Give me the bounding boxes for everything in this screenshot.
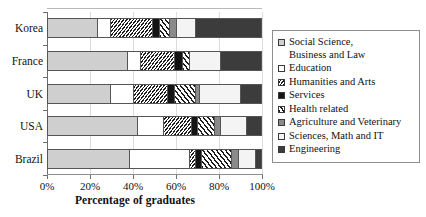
legend-item: Engineering [278, 143, 415, 156]
x-axis-tick-label: 20% [80, 180, 100, 192]
x-axis-tick [219, 175, 220, 179]
bar-row [47, 116, 262, 136]
legend-item: Health related [278, 103, 415, 116]
y-axis-label-brazil: Brazil [0, 153, 43, 165]
gridline [262, 12, 263, 174]
y-axis-tick [43, 45, 47, 46]
bar-row [47, 84, 262, 104]
x-axis-tick [133, 175, 134, 179]
bar-segment [189, 52, 221, 70]
bar-segment [48, 52, 127, 70]
legend-label: Engineering [289, 143, 340, 156]
y-axis-tick [43, 12, 47, 13]
legend-label: Services [289, 89, 325, 102]
legend-label: Health related [289, 103, 348, 116]
bar-segment [48, 117, 137, 135]
legend-swatch-icon [278, 106, 285, 113]
bar-segment [174, 52, 183, 70]
bar-segment [176, 19, 195, 37]
bar-segment [163, 117, 191, 135]
y-axis-tick [43, 175, 47, 176]
x-axis-tick-label: 0% [40, 180, 55, 192]
y-axis-tick [43, 77, 47, 78]
bar-segment [255, 150, 261, 168]
stacked-bar-chart: KoreaFranceUKUSABrazil 0%20%40%60%80%100… [0, 0, 270, 217]
x-axis-tick [262, 175, 263, 179]
y-axis-label-uk: UK [0, 88, 43, 100]
legend-item: Agriculture and Veterinary [278, 116, 415, 129]
bar-segment [127, 52, 140, 70]
legend-swatch-icon [278, 133, 285, 140]
legend-swatch-icon [278, 79, 285, 86]
bar-segment [48, 85, 110, 103]
legend-label: Sciences, Math and IT [289, 130, 383, 143]
bar-segment [195, 19, 261, 37]
bar-segment [220, 117, 246, 135]
x-axis-title: Percentage of graduates [0, 194, 270, 206]
legend-swatch-icon [278, 92, 285, 99]
bar-segment [246, 117, 261, 135]
y-axis-tick [43, 110, 47, 111]
y-axis-label-france: France [0, 55, 43, 67]
x-axis-tick-label: 40% [123, 180, 143, 192]
bar-segment [48, 150, 129, 168]
x-axis-tick-label: 80% [209, 180, 229, 192]
bar-row [47, 149, 262, 169]
x-axis-tick-label: 100% [249, 180, 275, 192]
bar-segment [110, 85, 133, 103]
bar-segment [238, 150, 255, 168]
legend-label: Agriculture and Veterinary [289, 116, 401, 129]
bar-segment [137, 117, 163, 135]
legend-item: Sciences, Math and IT [278, 130, 415, 143]
bar-segment [220, 52, 260, 70]
legend-label: Education [289, 62, 332, 75]
legend-swatch-icon [278, 65, 285, 72]
bar-segment [129, 150, 189, 168]
x-axis-line [47, 174, 263, 175]
legend-label: Social Science, Business and Law [289, 36, 365, 61]
legend-item: Humanities and Arts [278, 76, 415, 89]
bar-segment [159, 19, 170, 37]
y-axis-tick [43, 142, 47, 143]
bar-segment [97, 19, 110, 37]
bar-segment [140, 52, 174, 70]
legend-item: Education [278, 62, 415, 75]
bar-segment [240, 85, 261, 103]
legend-label: Humanities and Arts [289, 76, 375, 89]
bar-segment [197, 117, 214, 135]
legend-item: Social Science, Business and Law [278, 36, 415, 61]
bar-row [47, 51, 262, 71]
x-axis-tick [90, 175, 91, 179]
chart-legend: Social Science, Business and LawEducatio… [272, 30, 420, 163]
y-axis-label-korea: Korea [0, 22, 43, 34]
bar-segment [110, 19, 153, 37]
bar-segment [199, 85, 239, 103]
x-axis-tick [47, 175, 48, 179]
legend-item: Services [278, 89, 415, 102]
x-axis-tick [176, 175, 177, 179]
bar-segment [201, 150, 231, 168]
bar-segment [174, 85, 195, 103]
legend-swatch-icon [278, 39, 285, 46]
x-axis-tick-label: 60% [166, 180, 186, 192]
bar-segment [48, 19, 97, 37]
y-axis-label-usa: USA [0, 120, 43, 132]
legend-swatch-icon [278, 146, 285, 153]
bar-row [47, 18, 262, 38]
bar-segment [133, 85, 167, 103]
legend-swatch-icon [278, 119, 285, 126]
